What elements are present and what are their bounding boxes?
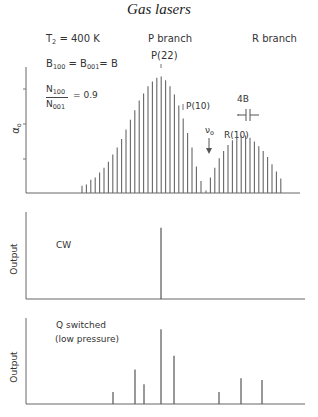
chart-canvas xyxy=(0,0,318,417)
nu0-arrow-head xyxy=(206,148,212,154)
